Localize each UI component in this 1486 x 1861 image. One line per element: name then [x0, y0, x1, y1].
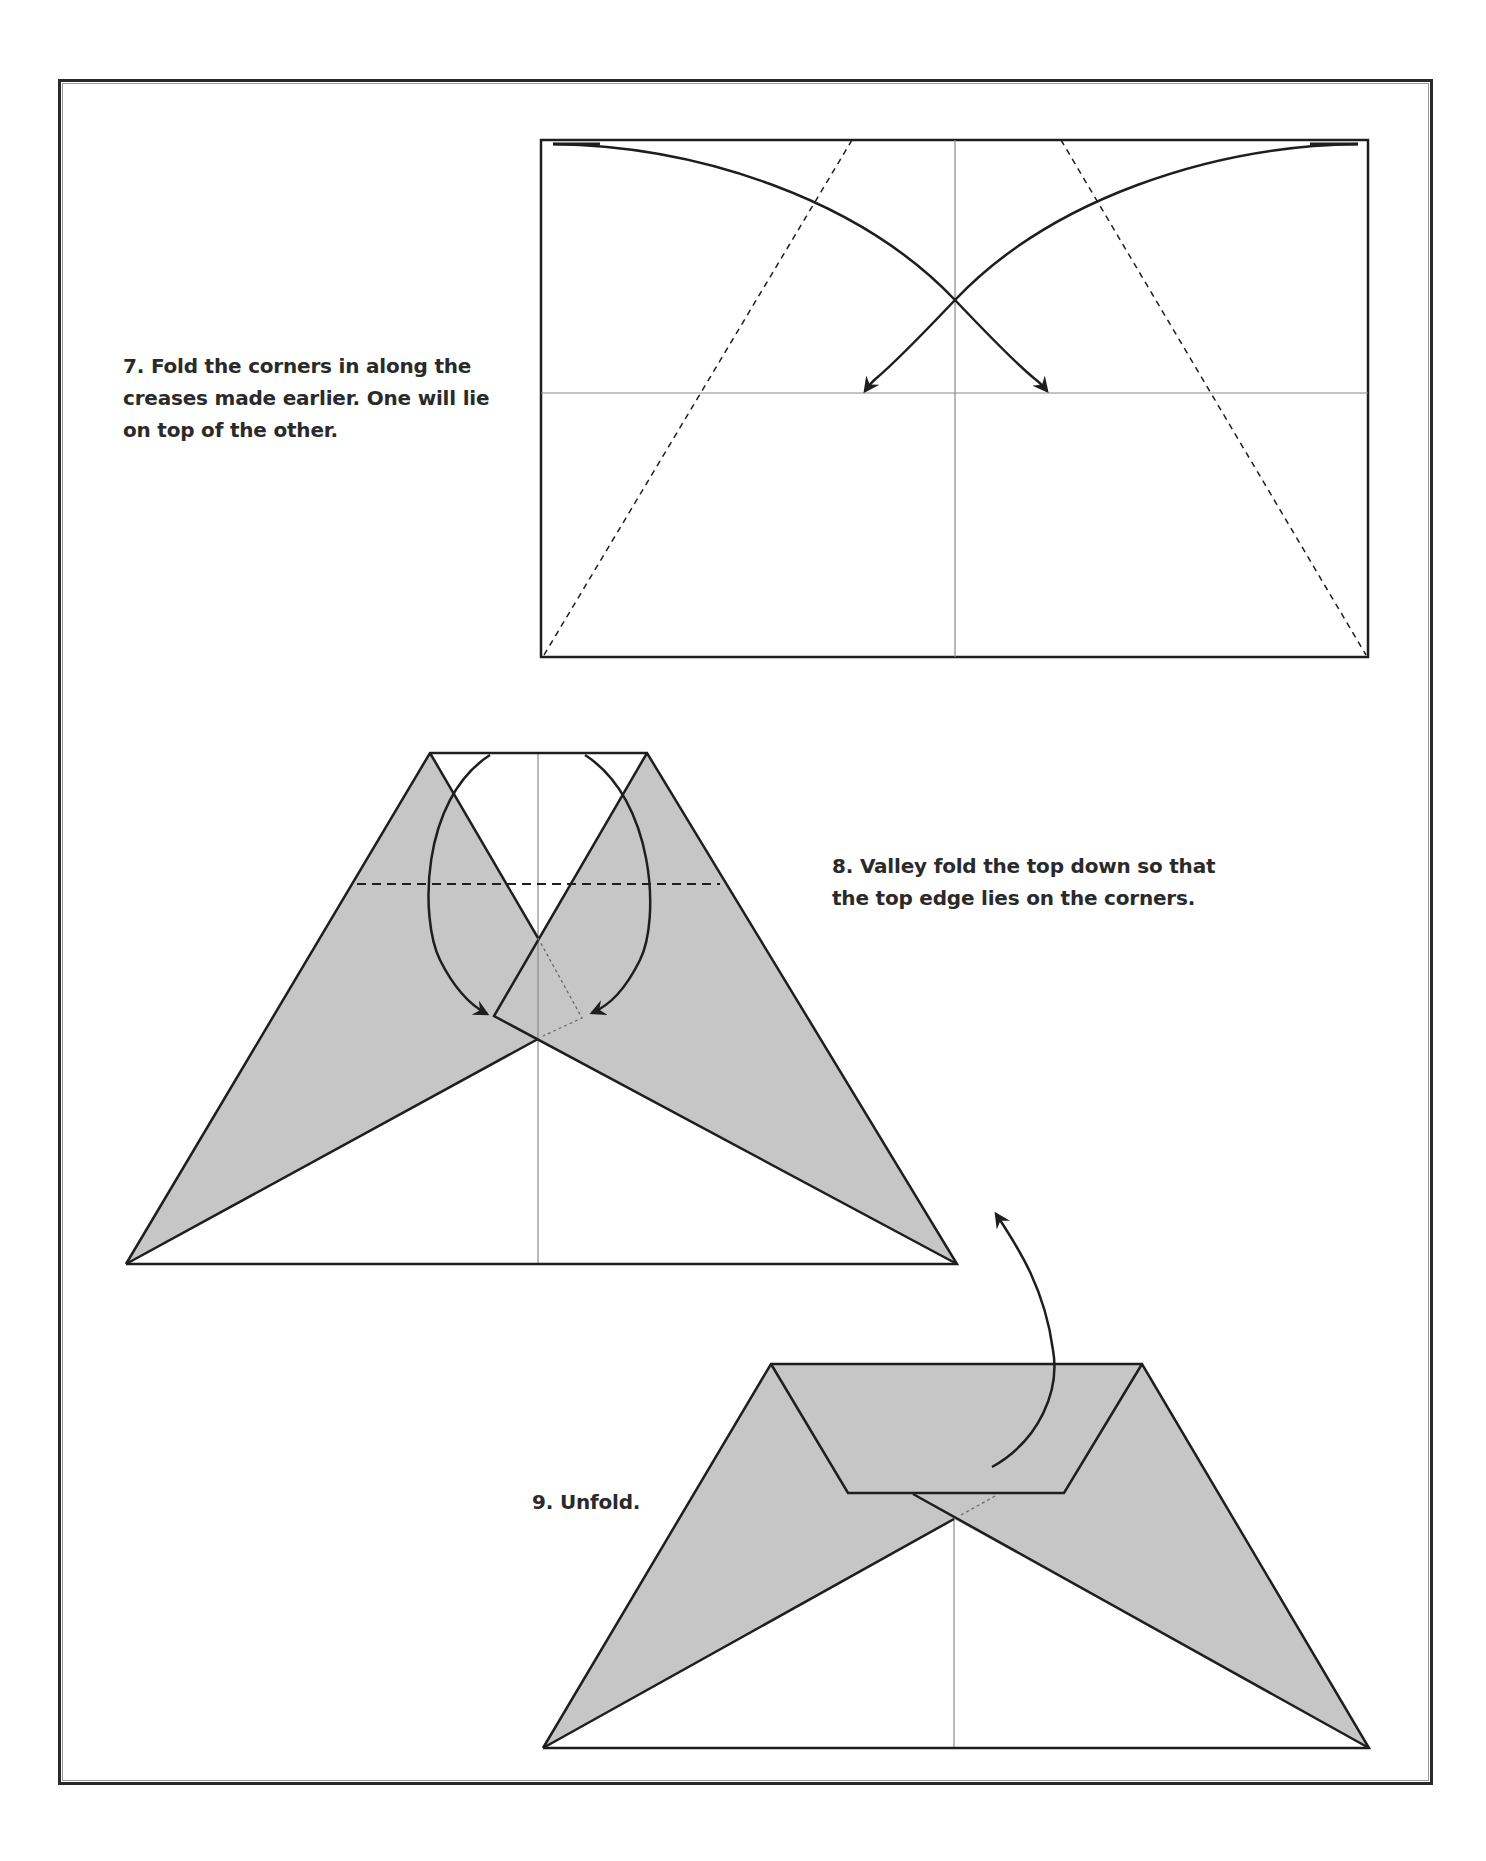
step-8-instructions: 8. Valley fold the top down so that the … — [832, 850, 1215, 914]
step-9-diagram — [543, 1214, 1369, 1748]
step-8-line-1: 8. Valley fold the top down so that — [832, 850, 1215, 882]
step-7-instructions: 7. Fold the corners in along the creases… — [123, 350, 489, 446]
step-7-diagram — [541, 140, 1368, 657]
origami-diagrams — [0, 0, 1486, 1861]
step-7-line-3: on top of the other. — [123, 414, 489, 446]
step-9-line-1: 9. Unfold. — [532, 1486, 640, 1518]
step-7-line-1: 7. Fold the corners in along the — [123, 350, 489, 382]
step-8-line-2: the top edge lies on the corners. — [832, 882, 1215, 914]
step-7-line-2: creases made earlier. One will lie — [123, 382, 489, 414]
step-8-diagram — [126, 753, 957, 1264]
step-9-instructions: 9. Unfold. — [532, 1486, 640, 1518]
